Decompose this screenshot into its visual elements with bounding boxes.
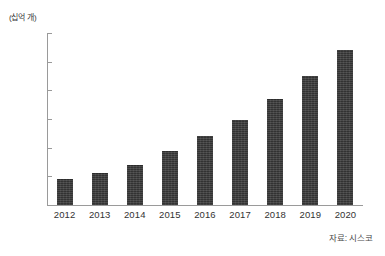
source-note: 자료: 시스코 <box>329 231 373 243</box>
x-axis-line <box>47 205 363 206</box>
x-tick-label: 2013 <box>82 209 117 220</box>
x-tick-label: 2015 <box>152 209 187 220</box>
bar-slot <box>188 33 223 205</box>
x-tick-label: 2017 <box>223 209 258 220</box>
x-tick-label: 2019 <box>293 209 328 220</box>
y-tick-mark <box>47 205 52 206</box>
bar-slot <box>152 33 187 205</box>
x-tick-label: 2020 <box>328 209 363 220</box>
bar <box>267 99 283 205</box>
bar <box>302 76 318 205</box>
x-tick-label: 2016 <box>188 209 223 220</box>
bar <box>337 50 353 205</box>
bar-slot <box>293 33 328 205</box>
x-tick-label: 2014 <box>117 209 152 220</box>
bar <box>92 173 108 205</box>
bar-slot <box>47 33 82 205</box>
bar-slot <box>223 33 258 205</box>
bar <box>197 136 213 205</box>
bar <box>232 120 248 205</box>
bar-slot <box>82 33 117 205</box>
bar <box>162 151 178 205</box>
bar-slot <box>328 33 363 205</box>
x-tick-label: 2018 <box>258 209 293 220</box>
bar-slot <box>258 33 293 205</box>
bars-layer <box>47 33 363 205</box>
x-tick-label: 2012 <box>47 209 82 220</box>
bar <box>57 179 73 205</box>
bar-chart-figure: (십억 개) 6050403020100 2012201320142015201… <box>0 0 385 256</box>
bar <box>127 165 143 205</box>
bar-slot <box>117 33 152 205</box>
y-axis-unit-label: (십억 개) <box>9 11 36 22</box>
x-axis-labels: 201220132014201520162017201820192020 <box>47 209 363 227</box>
